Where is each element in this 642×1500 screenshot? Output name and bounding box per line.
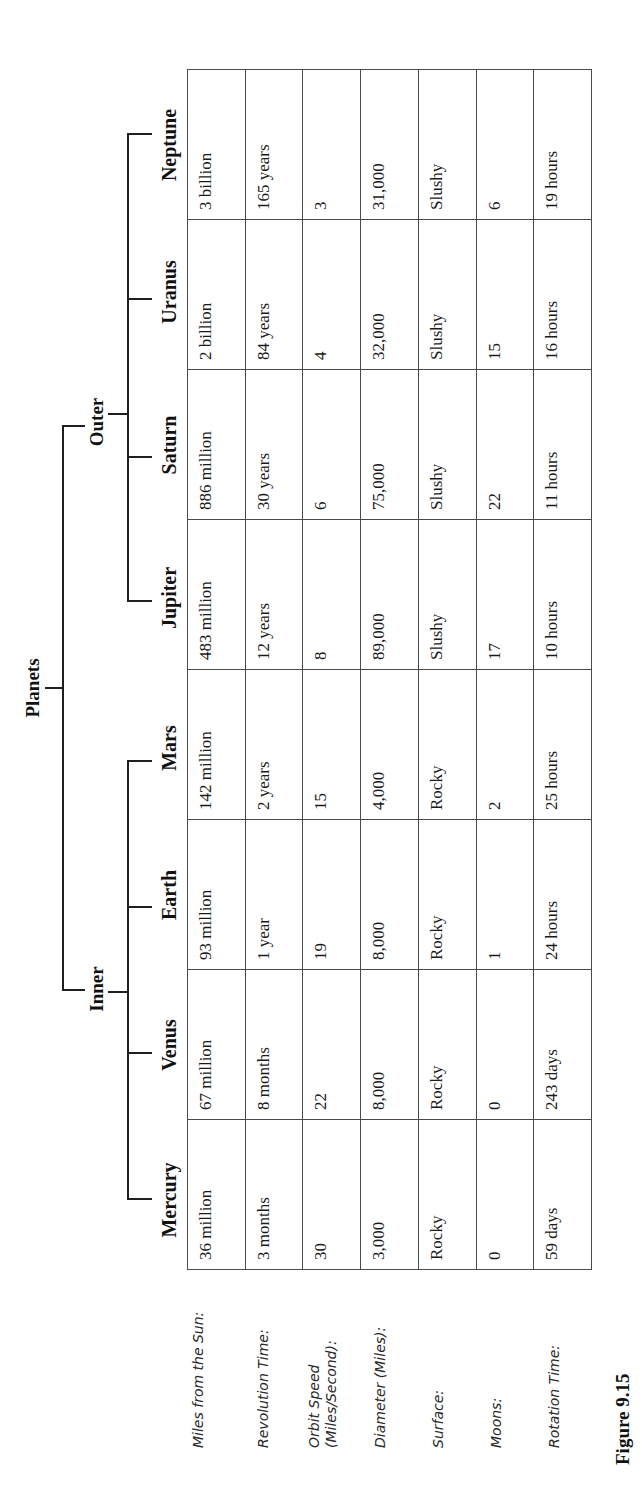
- table-cell: 22: [476, 370, 534, 520]
- root-trunk-inner-end: [62, 989, 85, 991]
- table-cell: 30 years: [245, 370, 303, 520]
- branch-jupiter: [127, 600, 152, 602]
- table-cell: 30: [303, 1120, 361, 1270]
- inner-connector: [108, 991, 128, 993]
- table-cell: 31,000: [361, 70, 419, 220]
- table-cell: 10 hours: [534, 520, 592, 670]
- table-cell: 75,000: [361, 370, 419, 520]
- table-cell: 32,000: [361, 220, 419, 370]
- table-row-moons: 0 0 1 2 17 22 15 6: [476, 70, 534, 1270]
- table-cell: 36 million: [188, 1120, 246, 1270]
- table-cell: 15: [303, 670, 361, 820]
- table-cell: Slushy: [418, 220, 476, 370]
- table-cell: 1: [476, 820, 534, 970]
- table-cell: 6: [303, 370, 361, 520]
- branch-earth: [127, 906, 152, 908]
- figure-caption: Figure 9.15: [612, 1374, 634, 1465]
- branch-neptune: [127, 133, 152, 135]
- table-cell: 2 billion: [188, 220, 246, 370]
- table-row-rotation-time: 59 days 243 days 24 hours 25 hours 10 ho…: [534, 70, 592, 1270]
- table-cell: 11 hours: [534, 370, 592, 520]
- table-cell: 67 million: [188, 970, 246, 1120]
- row-label-orbit-speed: Orbit Speed (Miles/Second):: [306, 1298, 340, 1448]
- table-cell: 3: [303, 70, 361, 220]
- table-cell: 12 years: [245, 520, 303, 670]
- planet-label-uranus: Uranus: [158, 260, 181, 323]
- table-cell: 15: [476, 220, 534, 370]
- row-label-moons: Moons:: [488, 1273, 505, 1448]
- table-cell: 17: [476, 520, 534, 670]
- outer-connector: [108, 413, 128, 415]
- branch-saturn: [127, 456, 152, 458]
- table-cell: Slushy: [418, 70, 476, 220]
- group-label-outer: Outer: [86, 398, 108, 447]
- row-label-miles-from-sun: Miles from the Sun:: [190, 1273, 207, 1448]
- table-cell: 89,000: [361, 520, 419, 670]
- table-cell: 3 months: [245, 1120, 303, 1270]
- table-cell: 3,000: [361, 1120, 419, 1270]
- branch-uranus: [127, 298, 152, 300]
- table-row-diameter: 3,000 8,000 8,000 4,000 89,000 75,000 32…: [361, 70, 419, 1270]
- table-row-surface: Rocky Rocky Rocky Rocky Slushy Slushy Sl…: [418, 70, 476, 1270]
- table-cell: Rocky: [418, 1120, 476, 1270]
- table-cell: Slushy: [418, 370, 476, 520]
- table-cell: 19: [303, 820, 361, 970]
- table-cell: 25 hours: [534, 670, 592, 820]
- row-label-diameter: Diameter (Miles):: [372, 1273, 389, 1448]
- table-cell: 4,000: [361, 670, 419, 820]
- table-cell: 483 million: [188, 520, 246, 670]
- table-cell: 3 billion: [188, 70, 246, 220]
- table-cell: 4: [303, 220, 361, 370]
- table-cell: 19 hours: [534, 70, 592, 220]
- root-label-planets: Planets: [22, 658, 44, 717]
- branch-mercury: [127, 1198, 152, 1200]
- table-row-revolution-time: 3 months 8 months 1 year 2 years 12 year…: [245, 70, 303, 1270]
- table-cell: 6: [476, 70, 534, 220]
- table-cell: 16 hours: [534, 220, 592, 370]
- table-cell: 165 years: [245, 70, 303, 220]
- planet-label-neptune: Neptune: [158, 109, 181, 181]
- outer-trunk: [127, 133, 129, 602]
- table-cell: 22: [303, 970, 361, 1120]
- planets-figure: Planets Inner Outer Mercury Venus Earth …: [0, 0, 642, 1500]
- table-cell: 2 years: [245, 670, 303, 820]
- table-cell: 93 million: [188, 820, 246, 970]
- planet-label-earth: Earth: [158, 870, 181, 920]
- planet-label-jupiter: Jupiter: [158, 567, 181, 629]
- root-trunk-outer-end: [62, 425, 85, 427]
- table-cell: 24 hours: [534, 820, 592, 970]
- planet-label-saturn: Saturn: [158, 416, 181, 475]
- table-cell: Slushy: [418, 520, 476, 670]
- branch-venus: [127, 1052, 152, 1054]
- table-cell: 59 days: [534, 1120, 592, 1270]
- table-cell: 8,000: [361, 820, 419, 970]
- table-cell: 0: [476, 970, 534, 1120]
- row-label-revolution-time: Revolution Time:: [255, 1273, 272, 1448]
- table-cell: 142 million: [188, 670, 246, 820]
- table-cell: 886 million: [188, 370, 246, 520]
- root-trunk: [62, 425, 64, 990]
- table-cell: 0: [476, 1120, 534, 1270]
- row-label-surface: Surface:: [430, 1273, 447, 1448]
- planet-label-mars: Mars: [158, 725, 181, 771]
- table-cell: 243 days: [534, 970, 592, 1120]
- table-row-orbit-speed: 30 22 19 15 8 6 4 3: [303, 70, 361, 1270]
- branch-mars: [127, 760, 152, 762]
- table-cell: Rocky: [418, 670, 476, 820]
- table-cell: Rocky: [418, 970, 476, 1120]
- planet-label-venus: Venus: [158, 1019, 181, 1071]
- table-cell: Rocky: [418, 820, 476, 970]
- table-cell: 1 year: [245, 820, 303, 970]
- table-cell: 8,000: [361, 970, 419, 1120]
- table-cell: 84 years: [245, 220, 303, 370]
- root-connector: [45, 687, 63, 689]
- row-label-rotation-time: Rotation Time:: [546, 1273, 563, 1448]
- group-label-inner: Inner: [86, 966, 108, 1011]
- inner-trunk: [127, 760, 129, 1200]
- table-cell: 2: [476, 670, 534, 820]
- table-cell: 8 months: [245, 970, 303, 1120]
- planet-label-mercury: Mercury: [158, 1162, 181, 1237]
- table-cell: 8: [303, 520, 361, 670]
- table-row-miles-from-sun: 36 million 67 million 93 million 142 mil…: [188, 70, 246, 1270]
- planet-data-table: 36 million 67 million 93 million 142 mil…: [187, 69, 592, 1270]
